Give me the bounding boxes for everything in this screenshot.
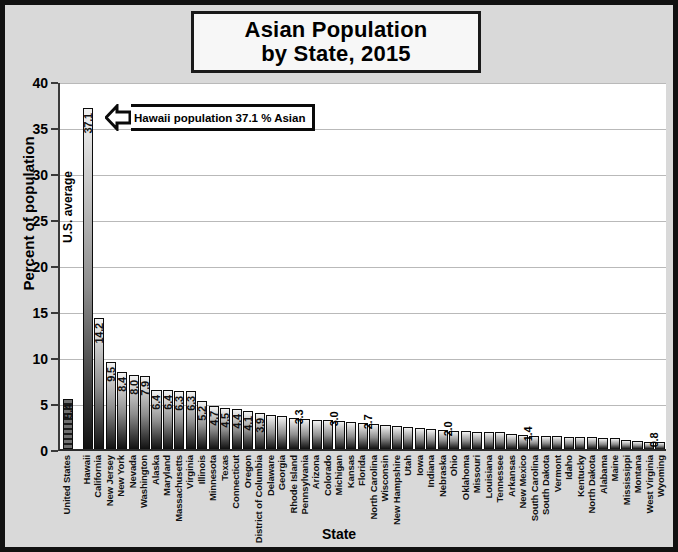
bar[interactable]: 6.3 <box>186 391 196 449</box>
bar-value-label: 1.4 <box>522 427 534 442</box>
bar-slot <box>552 83 563 449</box>
bar[interactable] <box>277 416 287 449</box>
x-tick-label: New Jersey <box>103 455 114 506</box>
bar-slot <box>563 83 574 449</box>
bar-slot <box>620 83 631 449</box>
x-tick-label: Texas <box>218 455 229 481</box>
bar[interactable] <box>541 436 551 449</box>
bar[interactable]: 8.0 <box>129 375 139 449</box>
bar-slot <box>609 83 620 449</box>
bar[interactable]: 5.2 <box>197 401 207 449</box>
bar-slot <box>403 83 414 449</box>
bar[interactable] <box>552 436 562 449</box>
bar-slot <box>311 83 322 449</box>
bar[interactable]: 6.3 <box>174 391 184 449</box>
bar[interactable] <box>380 425 390 449</box>
bar[interactable] <box>598 438 608 449</box>
bar[interactable]: 6.4 <box>163 390 173 449</box>
bar[interactable]: 14.2 <box>94 318 104 449</box>
bar[interactable] <box>610 438 620 449</box>
bar-slot: 0.8 <box>655 83 666 449</box>
bar[interactable]: 6.4 <box>151 390 161 449</box>
bar-slot: 4.5 <box>219 83 230 449</box>
x-tick-label: Kansas <box>344 455 355 488</box>
bar[interactable] <box>575 437 585 449</box>
y-tick-mark <box>51 404 58 406</box>
bar-slot: 1.4 <box>529 83 540 449</box>
x-tick-label: Hawaii <box>80 455 91 485</box>
x-tick-label: Alabama <box>597 455 608 494</box>
bar-slot: 6.3 <box>185 83 196 449</box>
bar-slot <box>460 83 471 449</box>
bar[interactable] <box>426 429 436 449</box>
x-tick-label: Connecticut <box>230 455 241 509</box>
bar-value-label: 4.1 <box>242 416 254 431</box>
bar[interactable]: 4.7 <box>209 406 219 449</box>
bar[interactable]: 2.7 <box>369 424 379 449</box>
bar[interactable] <box>461 431 471 449</box>
bar[interactable] <box>564 437 574 449</box>
y-tick-label: 10 <box>32 351 48 367</box>
y-tick-mark <box>51 450 58 452</box>
bar[interactable]: 4.1 <box>243 411 253 449</box>
x-tick-label: Michigan <box>333 455 344 495</box>
bar[interactable] <box>392 426 402 449</box>
bar-value-label: 37.1 <box>82 113 94 134</box>
bar[interactable] <box>312 420 322 449</box>
x-tick-label: Tennessee <box>494 455 505 503</box>
bar-value-label: 5.4 <box>62 404 74 419</box>
bar-slot <box>643 83 654 449</box>
bar[interactable] <box>495 432 505 449</box>
bar[interactable]: 8.4 <box>117 372 127 449</box>
bar-slot <box>426 83 437 449</box>
bar-slot <box>380 83 391 449</box>
y-tick-mark <box>51 312 58 314</box>
bar-value-label: 6.4 <box>150 395 162 410</box>
y-tick-label: 0 <box>40 443 48 459</box>
bar[interactable] <box>632 441 642 449</box>
bar-slot <box>345 83 356 449</box>
x-tick-label: Kentucky <box>574 455 585 497</box>
bar-slot <box>471 83 482 449</box>
bar[interactable]: 0.8 <box>655 442 665 449</box>
bar[interactable]: 4.4 <box>232 409 242 449</box>
bar[interactable] <box>415 428 425 449</box>
x-tick-label: Georgia <box>276 455 287 490</box>
bar-value-label: 5.2 <box>196 406 208 421</box>
y-tick-label: 15 <box>32 305 48 321</box>
bar[interactable]: 37.1 <box>83 108 93 449</box>
bar[interactable] <box>484 432 494 449</box>
bar[interactable]: 3.9 <box>255 413 265 449</box>
bar[interactable]: 5.4 <box>63 399 74 449</box>
bar[interactable]: 1.4 <box>529 436 539 449</box>
bar[interactable]: 3.0 <box>335 421 345 449</box>
bar[interactable] <box>621 440 631 449</box>
bar[interactable] <box>506 434 516 449</box>
bar[interactable]: 2.0 <box>449 431 459 449</box>
bar[interactable] <box>266 415 276 449</box>
bar-slot: 4.4 <box>231 83 242 449</box>
bar[interactable] <box>346 422 356 449</box>
x-tick-label: North Dakota <box>586 455 597 513</box>
y-tick-mark <box>51 220 58 222</box>
bar[interactable]: 4.5 <box>220 408 230 449</box>
bar-value-label: 8.4 <box>116 377 128 392</box>
x-tick-label: Utah <box>402 455 413 476</box>
bar[interactable] <box>472 432 482 449</box>
y-tick-mark <box>51 358 58 360</box>
bar[interactable] <box>587 437 597 449</box>
bar-slot: 2.0 <box>449 83 460 449</box>
bar-value-label: 6.3 <box>173 396 185 411</box>
bar-value-label: 3.9 <box>254 418 266 433</box>
bar[interactable]: 3.3 <box>300 419 310 449</box>
bar-slot: 6.4 <box>151 83 162 449</box>
chart-figure: Asian Population by State, 2015 Percent … <box>0 0 678 552</box>
y-tick-label: 35 <box>32 121 48 137</box>
bar-slot <box>483 83 494 449</box>
y-tick-label: 25 <box>32 213 48 229</box>
x-tick-label: Vermont <box>551 455 562 492</box>
bar[interactable] <box>403 427 413 449</box>
bar[interactable]: 7.9 <box>140 376 150 449</box>
x-tick-label: Pennsylvania <box>299 455 310 515</box>
bar[interactable]: 9.5 <box>106 362 116 449</box>
